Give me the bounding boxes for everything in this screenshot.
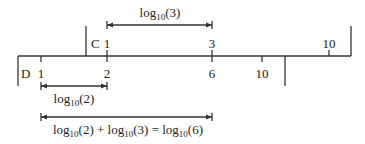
- c-scale-label: C: [91, 37, 100, 50]
- label-log3: log10(3): [140, 6, 181, 19]
- c-tick-label-10: 10: [323, 37, 336, 50]
- d-tick-label-10: 10: [256, 67, 269, 80]
- label-log2: log10(2): [54, 92, 95, 105]
- d-tick-label-1: 1: [38, 67, 45, 80]
- label-log-sum: log10(2) + log10(3) = log10(6): [53, 123, 203, 136]
- arrow-log6: [41, 113, 212, 121]
- d-scale-label: D: [21, 67, 30, 80]
- d-tick-label-6: 6: [209, 67, 216, 80]
- d-tick-label-2: 2: [104, 67, 111, 80]
- arrow-log3: [107, 21, 212, 29]
- c-tick-label-3: 3: [209, 37, 216, 50]
- c-tick-label-1: 1: [104, 37, 111, 50]
- arrow-log2: [41, 82, 107, 90]
